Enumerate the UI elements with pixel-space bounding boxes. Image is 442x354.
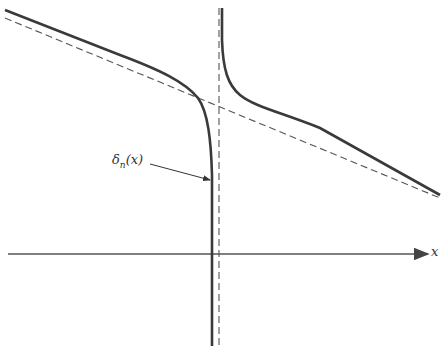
diagram-canvas [0,0,442,354]
label-pointer-arrow [150,164,210,180]
curve-label-symbol: δ [112,152,120,167]
curve-right-branch [222,8,440,195]
x-axis-label: x [431,244,438,259]
curve-label-argument: (x) [126,152,143,167]
curve-label: δn(x) [112,152,143,170]
